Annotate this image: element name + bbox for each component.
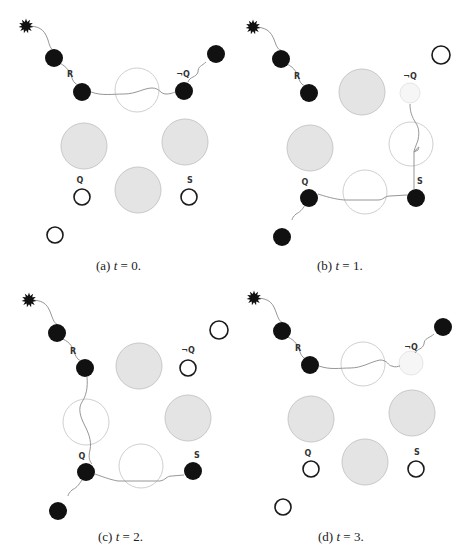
- node-label: Q: [302, 178, 309, 187]
- filled-node: [73, 83, 91, 101]
- caption-b-value: = 1.: [342, 258, 362, 273]
- panel-d: R¬QQS: [247, 291, 452, 516]
- faint-node: [400, 83, 420, 103]
- caption-a-var: t: [114, 258, 118, 273]
- filled-node: [76, 359, 94, 377]
- ring-node: [181, 189, 197, 205]
- filled-node: [48, 324, 66, 342]
- gray-node: [162, 119, 208, 165]
- ring-node: [408, 461, 424, 477]
- caption-d-var: t: [336, 529, 340, 544]
- caption-a-value: = 0.: [121, 258, 141, 273]
- gray-node: [165, 395, 211, 441]
- node-label: S: [417, 177, 423, 186]
- ring-node: [47, 227, 63, 243]
- faint-node: [399, 351, 423, 375]
- filled-node: [184, 462, 202, 480]
- wire-path: [292, 205, 305, 220]
- node-label: ¬Q: [404, 343, 418, 352]
- ring-node: [432, 46, 450, 64]
- filled-node: [301, 356, 319, 374]
- ring-node: [74, 189, 90, 205]
- node-label: Q: [77, 176, 84, 185]
- gray-node: [287, 125, 333, 171]
- node-label: R: [67, 70, 73, 79]
- node-label: R: [294, 72, 300, 81]
- caption-d: (d) t = 3.: [318, 529, 364, 545]
- filled-node: [77, 463, 95, 481]
- caption-c-var: t: [116, 529, 120, 544]
- filled-node: [207, 45, 225, 63]
- filled-node: [45, 49, 63, 67]
- ring-node: [275, 499, 291, 515]
- wire-path: [68, 480, 82, 496]
- filled-node: [273, 228, 291, 246]
- ring-node: [303, 461, 319, 477]
- caption-d-value: = 3.: [343, 529, 363, 544]
- gray-node: [342, 439, 388, 485]
- filled-node: [273, 322, 291, 340]
- caption-a-prefix: (a): [96, 258, 110, 273]
- node-label: S: [194, 451, 200, 460]
- node-label: S: [414, 448, 420, 457]
- node-label: R: [295, 344, 301, 353]
- caption-d-prefix: (d): [318, 529, 333, 544]
- figure: R¬QQSR¬QQSR¬QQSR¬QQS (a) t = 0. (b) t = …: [0, 0, 466, 556]
- caption-c: (c) t = 2.: [98, 529, 143, 545]
- panel-a: R¬QQS: [19, 19, 225, 244]
- caption-c-value: = 2.: [123, 529, 143, 544]
- caption-b-var: t: [335, 258, 339, 273]
- filled-node: [49, 502, 67, 520]
- node-label: ¬Q: [181, 346, 195, 355]
- panel-b: R¬QQS: [246, 20, 450, 247]
- gray-node: [288, 396, 334, 442]
- filled-node: [175, 82, 193, 100]
- open-node: [63, 399, 109, 445]
- node-label: R: [70, 347, 76, 356]
- filled-node: [300, 84, 318, 102]
- gray-node: [115, 167, 161, 213]
- filled-node: [272, 50, 290, 68]
- caption-c-prefix: (c): [98, 529, 112, 544]
- node-label: Q: [79, 452, 86, 461]
- caption-b: (b) t = 1.: [317, 258, 363, 274]
- node-label: ¬Q: [403, 72, 417, 81]
- filled-node: [434, 318, 452, 336]
- filled-node: [300, 189, 318, 207]
- gray-node: [116, 343, 162, 389]
- gray-node: [389, 390, 435, 436]
- gray-node: [339, 69, 385, 115]
- caption-b-prefix: (b): [317, 258, 332, 273]
- ring-node: [210, 321, 228, 339]
- wire-path: [415, 334, 434, 353]
- node-label: Q: [305, 449, 312, 458]
- open-node: [341, 342, 385, 386]
- open-node: [115, 68, 159, 112]
- panel-c: R¬QQS: [22, 293, 228, 521]
- open-node: [343, 170, 387, 214]
- ring-node: [180, 360, 196, 376]
- figure-canvas: R¬QQSR¬QQSR¬QQSR¬QQS: [0, 0, 466, 556]
- filled-node: [407, 189, 425, 207]
- caption-a: (a) t = 0.: [96, 258, 141, 274]
- gray-node: [61, 123, 107, 169]
- open-node: [389, 122, 433, 166]
- node-label: ¬Q: [176, 70, 190, 79]
- wire-path: [188, 62, 206, 82]
- node-label: S: [187, 176, 193, 185]
